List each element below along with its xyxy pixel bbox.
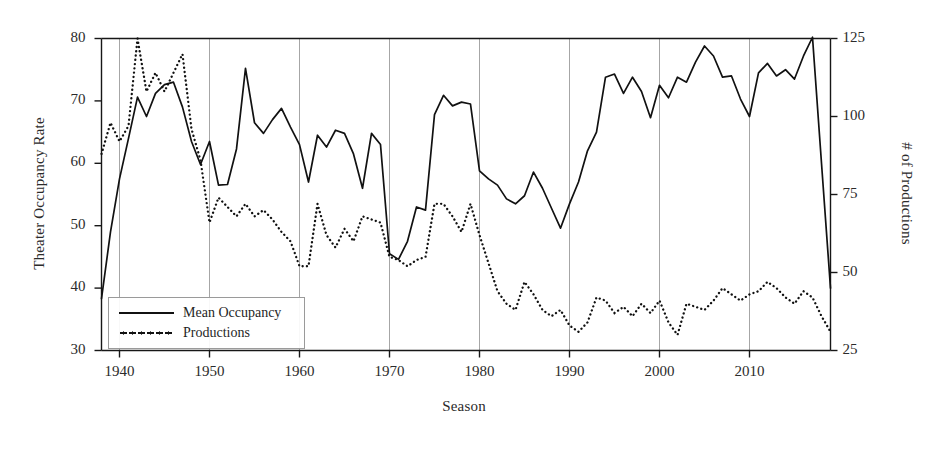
x-tick-label-2000: 2000 [625,363,695,380]
y-tick-label-left-60: 60 [46,153,86,170]
chart-figure: Theater Occupancy Rate # of Productions … [0,0,928,452]
series-line-1 [102,39,831,335]
x-tick-label-1960: 1960 [265,363,335,380]
y-tick-label-right-75: 75 [843,185,889,202]
y-tick-label-right-50: 50 [843,263,889,280]
chart-legend: Mean Occupancy Productions [108,297,305,349]
x-tick-label-1970: 1970 [355,363,425,380]
x-tick-label-2010: 2010 [715,363,785,380]
x-tick-label-1990: 1990 [535,363,605,380]
legend-item-mean-occupancy: Mean Occupancy [119,303,281,323]
legend-item-productions: Productions [119,323,250,343]
x-axis-label: Season [0,398,928,415]
legend-label-mean-occupancy: Mean Occupancy [183,305,281,321]
series-line-0 [102,37,831,298]
y-tick-label-left-40: 40 [46,278,86,295]
x-tick-label-1980: 1980 [445,363,515,380]
y-tick-label-right-100: 100 [843,107,889,124]
legend-swatch-dotted-line-icon [119,328,174,339]
x-tick-label-1940: 1940 [85,363,155,380]
y-tick-label-left-70: 70 [46,91,86,108]
legend-swatch-solid-line-icon [119,308,174,319]
legend-label-productions: Productions [183,325,250,341]
y-axis-label-right: # of Productions [898,94,915,294]
y-tick-label-left-80: 80 [46,29,86,46]
y-tick-label-right-125: 125 [843,29,889,46]
y-tick-label-right-25: 25 [843,341,889,358]
x-tick-label-1950: 1950 [175,363,245,380]
y-tick-label-left-30: 30 [46,341,86,358]
y-tick-label-left-50: 50 [46,216,86,233]
chart-canvas [0,0,928,452]
y-axis-label-left: Theater Occupancy Rate [31,94,48,294]
